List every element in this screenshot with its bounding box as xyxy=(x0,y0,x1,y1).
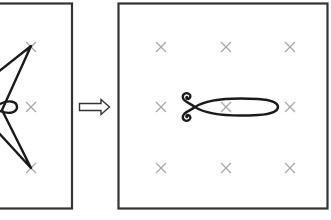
star-curve xyxy=(0,46,31,168)
left-panel-frame xyxy=(0,4,72,209)
lower-curl-curve xyxy=(183,107,195,121)
cross-marker xyxy=(156,102,166,112)
ellipse-curve xyxy=(195,98,278,115)
cross-marker xyxy=(221,102,231,112)
cross-marker xyxy=(285,102,295,112)
transformation-diagram xyxy=(0,0,331,220)
cross-marker xyxy=(221,163,231,173)
cross-marker xyxy=(285,42,295,52)
cross-marker xyxy=(156,163,166,173)
right-panel-frame xyxy=(119,4,328,209)
cross-marker xyxy=(156,42,166,52)
right-panel xyxy=(119,4,328,209)
cross-marker xyxy=(285,163,295,173)
transform-arrow-icon xyxy=(80,100,110,115)
cross-marker xyxy=(221,42,231,52)
cross-marker xyxy=(26,102,36,112)
left-panel xyxy=(0,4,72,209)
upper-curl-curve xyxy=(183,93,195,107)
